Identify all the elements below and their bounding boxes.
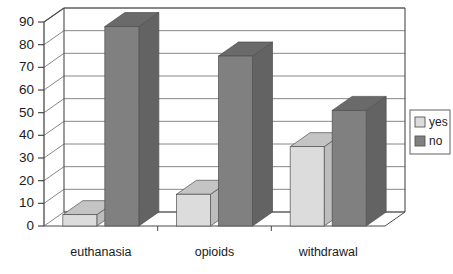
x-axis-category-label: opioids bbox=[195, 245, 235, 259]
bar-front-face bbox=[332, 110, 366, 226]
legend[interactable]: yesno bbox=[410, 110, 450, 154]
bar-front-face bbox=[290, 147, 324, 226]
bar-front-face bbox=[105, 27, 139, 226]
bar-euthanasia-no bbox=[105, 13, 159, 226]
chart-canvas: 0102030405060708090 euthanasiaopioidswit… bbox=[0, 0, 453, 274]
bar-side-face bbox=[366, 96, 386, 226]
bar-front-face bbox=[63, 215, 97, 226]
legend-item-yes[interactable]: yes bbox=[415, 115, 448, 129]
y-axis-tick-label: 20 bbox=[19, 173, 34, 188]
y-axis-tick-label: 80 bbox=[19, 37, 34, 52]
x-axis-category-label: euthanasia bbox=[70, 245, 131, 259]
bar-side-face bbox=[253, 42, 273, 226]
bar-side-face bbox=[139, 13, 159, 226]
bar-front-face bbox=[219, 56, 253, 226]
legend-item-no[interactable]: no bbox=[415, 134, 443, 148]
y-axis-tick-label: 90 bbox=[19, 14, 34, 29]
legend-label: no bbox=[429, 134, 443, 148]
bar-front-face bbox=[177, 194, 211, 226]
y-axis-tick-label: 0 bbox=[26, 218, 34, 233]
y-axis-tick-label: 10 bbox=[19, 195, 34, 210]
x-axis-category-label: withdrawal bbox=[298, 245, 358, 259]
y-axis-tick-label: 30 bbox=[19, 150, 34, 165]
y-axis-tick-label: 50 bbox=[19, 105, 34, 120]
x-axis-category-labels: euthanasiaopioidswithdrawal bbox=[70, 226, 357, 259]
y-axis-tick-label: 60 bbox=[19, 82, 34, 97]
bar-withdrawal-no bbox=[332, 96, 386, 226]
legend-label: yes bbox=[429, 115, 448, 129]
y-axis-tick-label: 40 bbox=[19, 127, 34, 142]
legend-swatch-yes bbox=[415, 117, 425, 127]
bar-opioids-no bbox=[219, 42, 273, 226]
y-axis-tick-labels: 0102030405060708090 bbox=[19, 14, 44, 233]
bar-chart: 0102030405060708090 euthanasiaopioidswit… bbox=[0, 0, 453, 274]
legend-swatch-no bbox=[415, 136, 425, 146]
y-axis-tick-label: 70 bbox=[19, 59, 34, 74]
